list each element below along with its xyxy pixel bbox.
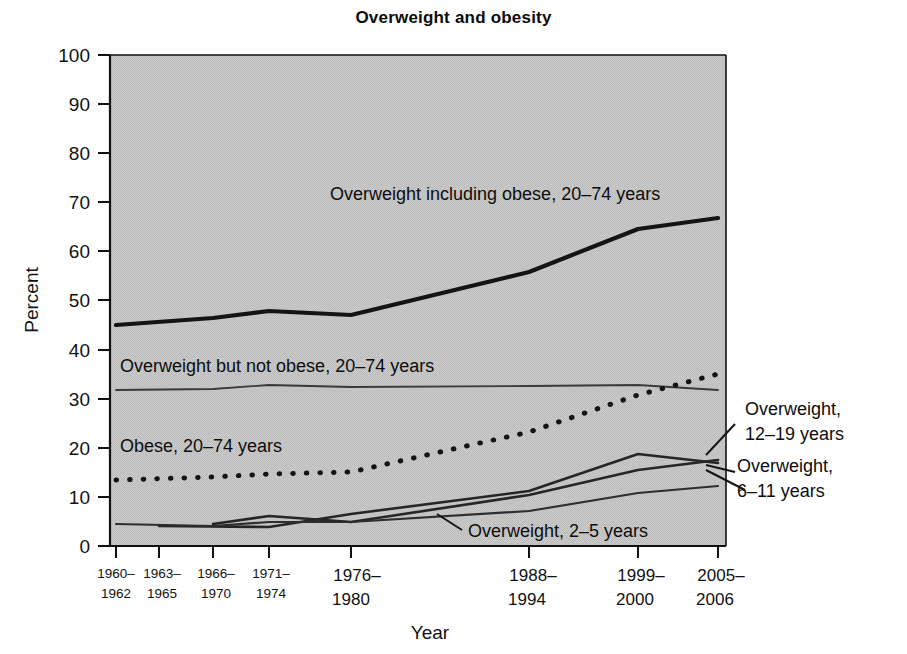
ytick-label-100: 100 (58, 45, 90, 66)
annotation-overweight-12-19-line1: Overweight, (745, 399, 841, 419)
xtick-label-1976-1980-bottom: 1980 (332, 590, 370, 609)
overweight-obesity-line-chart: 100 90 80 70 60 50 40 30 20 10 0 Percent (0, 0, 907, 654)
ytick-label-30: 30 (69, 389, 90, 410)
annotation-overweight-12-19-line2: 12–19 years (745, 424, 844, 444)
x-axis-tick-labels: 1960– 1962 1963– 1965 1966– 1970 1971– 1… (97, 566, 745, 609)
xtick-label-2005-2006-bottom: 2006 (696, 590, 734, 609)
ytick-label-40: 40 (69, 340, 90, 361)
y-axis-ticks (98, 55, 110, 546)
ytick-label-70: 70 (69, 192, 90, 213)
ytick-label-20: 20 (69, 438, 90, 459)
xtick-label-1988-1994-top: 1988– (509, 566, 557, 585)
ytick-label-60: 60 (69, 241, 90, 262)
x-axis-label: Year (411, 622, 450, 643)
chart-figure: Overweight and obesity (0, 0, 907, 654)
xtick-label-1999-2000-bottom: 2000 (616, 590, 654, 609)
xtick-label-1976-1980-top: 1976– (333, 566, 381, 585)
xtick-label-1988-1994-bottom: 1994 (508, 590, 546, 609)
xtick-label-1971-1974-top: 1971– (252, 566, 290, 581)
annotation-obese: Obese, 20–74 years (120, 436, 282, 456)
y-axis-tick-labels: 100 90 80 70 60 50 40 30 20 10 0 (58, 45, 90, 557)
xtick-label-1963-1965-bottom: 1965 (147, 586, 177, 601)
ytick-label-10: 10 (69, 487, 90, 508)
annotation-overweight-6-11-line1: Overweight, (737, 456, 833, 476)
annotation-overweight-including-obese: Overweight including obese, 20–74 years (330, 184, 660, 204)
xtick-label-2005-2006-top: 2005– (697, 566, 745, 585)
xtick-label-1966-1970-top: 1966– (197, 566, 235, 581)
annotation-overweight-but-not-obese: Overweight but not obese, 20–74 years (120, 356, 434, 376)
ytick-label-50: 50 (69, 290, 90, 311)
ytick-label-90: 90 (69, 94, 90, 115)
annotation-overweight-2-5: Overweight, 2–5 years (468, 521, 648, 541)
xtick-label-1960-1962-bottom: 1962 (101, 586, 131, 601)
ytick-label-0: 0 (79, 536, 90, 557)
x-axis-ticks (116, 546, 718, 558)
ytick-label-80: 80 (69, 143, 90, 164)
xtick-label-1971-1974-bottom: 1974 (256, 586, 287, 601)
y-axis-label: Percent (21, 267, 42, 333)
xtick-label-1963-1965-top: 1963– (143, 566, 181, 581)
annotation-overweight-6-11-line2: 6–11 years (737, 481, 825, 501)
xtick-label-1960-1962-top: 1960– (97, 566, 135, 581)
xtick-label-1966-1970-bottom: 1970 (201, 586, 231, 601)
xtick-label-1999-2000-top: 1999– (617, 566, 665, 585)
